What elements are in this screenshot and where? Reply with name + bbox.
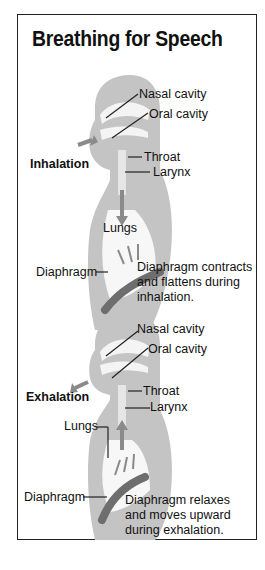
inhalation-label-nasal-cavity: Nasal cavity (139, 87, 206, 101)
exhalation-phase-label: Exhalation (26, 390, 89, 404)
inhalation-phase-label: Inhalation (30, 157, 89, 171)
inhalation-caption: Diaphragm contracts and flattens during … (137, 260, 257, 305)
exhalation-label-larynx: Larynx (150, 400, 188, 414)
inhalation-label-throat: Throat (144, 150, 180, 164)
inhalation-label-diaphragm: Diaphragm (36, 265, 97, 279)
inhalation-label-oral-cavity: Oral cavity (149, 107, 208, 121)
exhalation-caption: Diaphragm relaxes and moves upward durin… (125, 493, 253, 538)
exhalation-label-diaphragm: Diaphragm (24, 490, 85, 504)
inhalation-label-larynx: Larynx (153, 165, 191, 179)
inhalation-label-lungs: Lungs (103, 221, 137, 235)
exhalation-label-nasal-cavity: Nasal cavity (137, 322, 204, 336)
exhalation-label-lungs: Lungs (64, 419, 98, 433)
exhalation-label-throat: Throat (143, 384, 179, 398)
exhalation-label-oral-cavity: Oral cavity (148, 342, 207, 356)
